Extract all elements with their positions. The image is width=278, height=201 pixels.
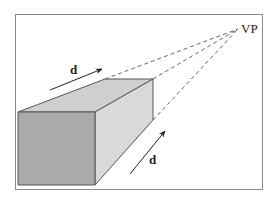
- perspective-diagram: [0, 0, 278, 201]
- vanishing-line-bottom-right: [153, 29, 238, 120]
- box: [18, 79, 153, 185]
- box-front-face: [18, 112, 95, 185]
- vanishing-point-label: VP: [241, 22, 258, 35]
- vanishing-line-top-left: [105, 29, 238, 79]
- distance-label-side: d: [149, 153, 156, 166]
- vanishing-line-top-right: [153, 29, 238, 79]
- distance-label-top: d: [70, 63, 77, 76]
